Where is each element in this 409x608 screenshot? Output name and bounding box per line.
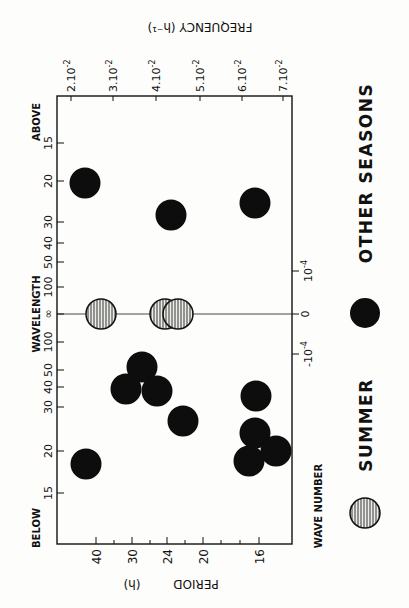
wavelength-tick-label: 15 xyxy=(42,136,55,150)
wavelength-tick-label: 100 xyxy=(42,332,55,353)
wavelength-tick-label: 30 xyxy=(42,400,55,414)
other-seasons-point xyxy=(241,381,272,412)
legend-summer-label: SUMMER xyxy=(356,378,376,472)
period-tick-label: 40 xyxy=(90,549,104,564)
label-frequency: FREQUENCY (h⁻¹) xyxy=(147,20,252,34)
frequency-tick-label: 6.10-2 xyxy=(234,60,249,92)
other-seasons-point xyxy=(111,374,142,405)
legend: SUMMER OTHER SEASONS xyxy=(350,83,380,528)
frequency-tick-label: 5.10-2 xyxy=(192,60,207,92)
label-wavelength: WAVELENGTH xyxy=(31,275,42,352)
scatter-chart: 1520304050100∞1005040302015 4030242016 2… xyxy=(0,0,409,608)
wavelength-tick-label: 100 xyxy=(42,277,55,298)
frequency-tick-label: 2.10-2 xyxy=(63,60,78,92)
legend-summer-marker xyxy=(350,498,380,528)
wavelength-tick-label: 30 xyxy=(42,215,55,229)
wavelength-tick-label: 50 xyxy=(42,255,55,269)
wavelength-tick-label: 20 xyxy=(42,174,55,188)
period-tick-label: 24 xyxy=(161,549,175,564)
label-below: BELOW xyxy=(31,508,42,548)
label-period: PERIOD xyxy=(173,577,218,591)
wavelength-tick-label: 40 xyxy=(42,380,55,394)
summer-point xyxy=(86,299,116,329)
period-tick-label: 16 xyxy=(253,549,267,564)
frequency-axis: 2.10-23.10-24.10-25.10-26.10-27.10-2 xyxy=(63,60,290,101)
other-seasons-point xyxy=(156,200,187,231)
period-axis: 4030242016 xyxy=(90,537,267,564)
legend-other-label: OTHER SEASONS xyxy=(356,83,376,264)
wavelength-tick-label: 20 xyxy=(42,444,55,458)
wavenumber-tick-label: 0 xyxy=(299,311,312,318)
wavenumber-axis: 10-40-10-4 xyxy=(292,260,315,367)
wavelength-axis: 1520304050100∞1005040302015 xyxy=(42,136,64,500)
frequency-tick-label: 7.10-2 xyxy=(275,60,290,92)
other-seasons-point xyxy=(234,446,265,477)
other-seasons-point xyxy=(70,168,101,199)
wavelength-tick-label: 15 xyxy=(42,486,55,500)
wavelength-tick-label: 50 xyxy=(42,363,55,377)
period-tick-label: 20 xyxy=(197,549,211,564)
other-seasons-point xyxy=(240,188,271,219)
other-seasons-point xyxy=(261,436,292,467)
frequency-tick-label: 3.10-2 xyxy=(105,60,120,92)
other-seasons-point xyxy=(142,376,173,407)
wavelength-tick-label: ∞ xyxy=(42,309,55,318)
other-seasons-point xyxy=(71,449,102,480)
period-tick-label: 30 xyxy=(126,549,140,564)
legend-other-marker xyxy=(350,298,380,328)
other-seasons-point xyxy=(168,406,199,437)
label-above: ABOVE xyxy=(31,103,42,141)
summer-point xyxy=(163,299,193,329)
wavenumber-tick-label: -10-4 xyxy=(300,341,315,367)
wavelength-tick-label: 40 xyxy=(42,236,55,250)
frequency-tick-label: 4.10-2 xyxy=(148,60,163,92)
label-wave-number: WAVE NUMBER xyxy=(313,464,324,549)
label-period-unit: (h) xyxy=(124,577,141,591)
wavenumber-tick-label: 10-4 xyxy=(300,260,315,282)
